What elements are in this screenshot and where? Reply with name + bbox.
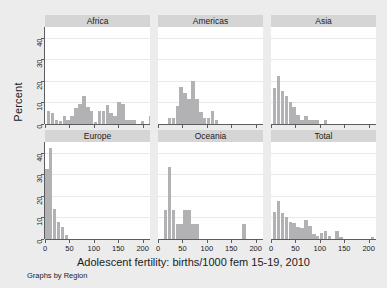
x-tick	[69, 125, 70, 128]
panel-title-africa: Africa	[45, 15, 150, 27]
x-tick	[256, 240, 257, 243]
figure-note: Graphs by Region	[27, 271, 87, 280]
x-tick	[182, 240, 183, 243]
y-tick-label: 10	[35, 103, 44, 123]
histogram-bar	[242, 224, 246, 239]
x-tick	[143, 240, 144, 243]
x-tick	[320, 240, 321, 243]
x-tick	[271, 125, 272, 128]
x-tick	[231, 125, 232, 128]
bar-series	[271, 27, 376, 124]
x-tick-label: 50	[57, 244, 81, 253]
x-tick	[158, 240, 159, 243]
x-tick	[369, 125, 370, 128]
x-tick	[118, 125, 119, 128]
x-tick	[344, 125, 345, 128]
x-tick-label: 50	[283, 244, 307, 253]
x-tick	[256, 125, 257, 128]
x-tick	[45, 240, 46, 243]
x-axis-line	[158, 239, 263, 240]
x-axis-line	[271, 239, 376, 240]
x-tick-label: 50	[170, 244, 194, 253]
x-tick-label: 0	[146, 244, 170, 253]
x-tick	[207, 125, 208, 128]
y-tick-label: 30	[35, 60, 44, 80]
panel-title-europe: Europe	[45, 130, 150, 142]
x-tick-label: 100	[195, 244, 219, 253]
x-tick-label: 150	[219, 244, 243, 253]
y-tick-label: 20	[35, 81, 44, 101]
bar-series	[158, 27, 263, 124]
y-axis-line	[44, 142, 45, 239]
panel-title-oceania: Oceania	[158, 130, 263, 142]
plot-area-europe	[45, 142, 150, 239]
x-tick	[295, 125, 296, 128]
x-tick	[207, 240, 208, 243]
x-tick-label: 200	[357, 244, 381, 253]
panel-title-asia: Asia	[271, 15, 376, 27]
y-tick-label: 40	[35, 153, 44, 173]
panel-americas: Americas	[158, 15, 263, 124]
histogram-bar	[195, 224, 199, 239]
y-axis-line	[44, 27, 45, 124]
plot-area-oceania	[158, 142, 263, 239]
panel-asia: Asia	[271, 15, 376, 124]
y-tick-label: 30	[35, 175, 44, 195]
x-tick	[118, 240, 119, 243]
x-tick	[94, 240, 95, 243]
x-axis-line	[271, 124, 376, 125]
plot-area-asia	[271, 27, 376, 124]
panel-europe: Europe	[45, 130, 150, 239]
histogram-bar	[149, 116, 150, 124]
x-axis-title: Adolescent fertility: births/1000 fem 15…	[0, 256, 387, 268]
bar-series	[45, 27, 150, 124]
x-tick	[231, 240, 232, 243]
bar-series	[45, 142, 150, 239]
x-tick	[94, 125, 95, 128]
x-tick	[369, 240, 370, 243]
y-tick-label: 10	[35, 218, 44, 238]
x-tick-label: 100	[82, 244, 106, 253]
x-tick-label: 150	[332, 244, 356, 253]
bar-series	[271, 142, 376, 239]
x-tick	[182, 125, 183, 128]
y-tick-label: 0	[35, 125, 44, 145]
plot-area-africa	[45, 27, 150, 124]
x-tick-label: 150	[106, 244, 130, 253]
x-tick-label: 100	[308, 244, 332, 253]
x-tick	[69, 240, 70, 243]
x-axis-line	[158, 124, 263, 125]
x-tick	[45, 125, 46, 128]
x-tick	[271, 240, 272, 243]
x-tick	[320, 125, 321, 128]
chart-figure: Percent Africa010203040AmericasAsiaEurop…	[0, 0, 387, 288]
x-tick	[344, 240, 345, 243]
x-tick-label: 0	[259, 244, 283, 253]
panel-title-americas: Americas	[158, 15, 263, 27]
y-axis-title: Percent	[12, 62, 24, 142]
panel-title-total: Total	[271, 130, 376, 142]
y-tick-label: 20	[35, 196, 44, 216]
x-axis-line	[45, 239, 150, 240]
plot-area-total	[271, 142, 376, 239]
y-tick-label: 40	[35, 38, 44, 58]
x-axis-line	[45, 124, 150, 125]
bar-series	[158, 142, 263, 239]
x-tick	[158, 125, 159, 128]
panel-oceania: Oceania	[158, 130, 263, 239]
x-tick	[295, 240, 296, 243]
x-tick	[143, 125, 144, 128]
panel-total: Total	[271, 130, 376, 239]
plot-area-americas	[158, 27, 263, 124]
panel-africa: Africa	[45, 15, 150, 124]
